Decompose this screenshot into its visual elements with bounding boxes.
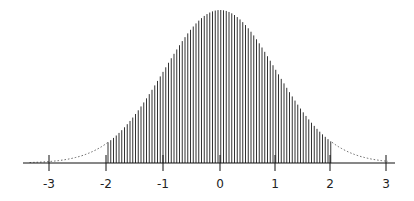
tick-label: 1 xyxy=(271,177,279,191)
normal-distribution-chart: -3-2-10123 xyxy=(0,0,414,201)
shaded-area-hatching xyxy=(108,10,331,163)
tick-label: 0 xyxy=(216,177,224,191)
tick-label: 3 xyxy=(382,177,390,191)
tick-label: -1 xyxy=(157,177,169,191)
tick-label: -3 xyxy=(43,177,55,191)
tick-label: -2 xyxy=(100,177,112,191)
right-tail-dotted-curve xyxy=(332,142,388,161)
x-axis-ticks: -3-2-10123 xyxy=(43,155,390,191)
tick-label: 2 xyxy=(326,177,334,191)
left-tail-dotted-curve xyxy=(30,142,108,162)
